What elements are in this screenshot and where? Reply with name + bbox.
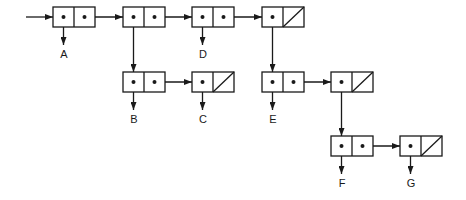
- label-a: A: [60, 48, 68, 60]
- cons-cell-p5: [123, 72, 165, 92]
- cons-cell-p1: [53, 7, 95, 27]
- cons-cell-p7: [262, 72, 304, 92]
- cdr-pointer-dot: [83, 15, 87, 19]
- car-pointer-dot: [132, 15, 136, 19]
- cons-cell-p10: [400, 136, 442, 156]
- cons-cell-p2: [123, 7, 165, 27]
- car-pointer-dot: [132, 80, 136, 84]
- atom-labels: A D B C E F G: [60, 48, 415, 189]
- cdr-pointer-dot: [153, 15, 157, 19]
- car-pointer-dot: [409, 144, 413, 148]
- cdr-pointer-dot: [153, 80, 157, 84]
- label-c: C: [199, 113, 207, 125]
- car-pointer-dot: [201, 15, 205, 19]
- label-e: E: [269, 113, 276, 125]
- cons-cell-p8: [331, 72, 373, 92]
- car-pointer-dot: [340, 80, 344, 84]
- cdr-pointer-dot: [292, 80, 296, 84]
- car-pointer-dot: [62, 15, 66, 19]
- cons-cell-p3: [192, 7, 234, 27]
- label-d: D: [199, 48, 207, 60]
- car-pointer-dot: [271, 15, 275, 19]
- label-g: G: [407, 177, 416, 189]
- car-pointer-dot: [340, 144, 344, 148]
- label-b: B: [130, 113, 137, 125]
- label-f: F: [339, 177, 346, 189]
- box-and-pointer-diagram: A D B C E F G: [0, 0, 466, 200]
- cons-cell-p6: [192, 72, 234, 92]
- cdr-pointer-dot: [361, 144, 365, 148]
- cons-cell-p9: [331, 136, 373, 156]
- car-pointer-dot: [271, 80, 275, 84]
- cdr-pointer-dot: [222, 15, 226, 19]
- car-pointer-dot: [201, 80, 205, 84]
- cons-cells: [53, 7, 442, 156]
- cons-cell-p4: [262, 7, 304, 27]
